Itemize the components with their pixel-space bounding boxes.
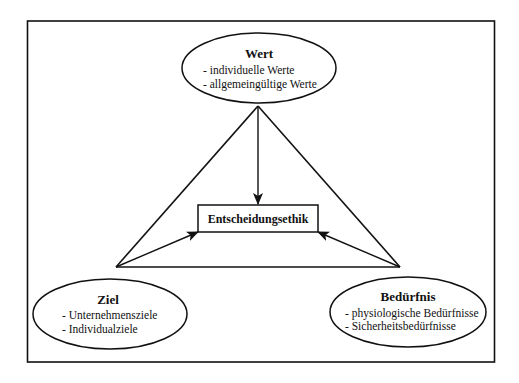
center-box: Entscheidungsethik (198, 205, 318, 232)
triangle-edge-right (258, 106, 400, 267)
arrow-ziel-to-center (116, 232, 198, 267)
diagram-canvas: Entscheidungsethik Wert - individuelle W… (0, 0, 519, 383)
center-box-label: Entscheidungsethik (208, 212, 309, 226)
arrow-beduerfnis-to-center (318, 232, 400, 267)
node-wert-item: - individuelle Werte (203, 64, 294, 76)
node-ziel: Ziel - Unternehmensziele - Individualzie… (33, 279, 187, 349)
node-beduerfnis: Bedürfnis - physiologische Bedürfnisse -… (330, 277, 486, 347)
node-wert-item: - allgemeingültige Werte (203, 78, 317, 91)
node-beduerfnis-item: - physiologische Bedürfnisse (345, 307, 479, 320)
triangle-edge-left (116, 106, 258, 267)
node-beduerfnis-item: - Sicherheitsbedürfnisse (345, 320, 456, 332)
node-beduerfnis-title: Bedürfnis (381, 289, 436, 304)
node-ziel-title: Ziel (97, 292, 119, 307)
node-wert-title: Wert (245, 46, 274, 61)
node-wert: Wert - individuelle Werte - allgemeingül… (182, 33, 336, 103)
node-ziel-item: - Unternehmensziele (62, 309, 157, 321)
node-ziel-item: - Individualziele (62, 323, 138, 335)
